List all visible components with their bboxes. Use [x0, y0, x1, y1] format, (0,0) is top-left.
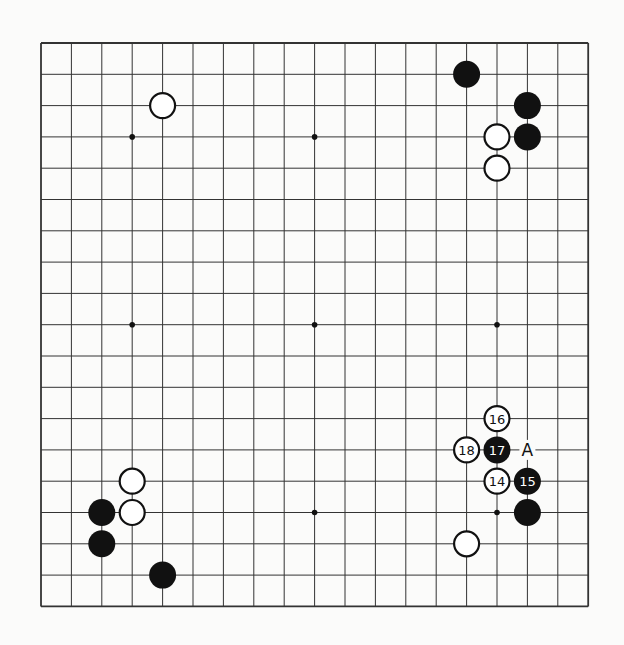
star-point — [312, 134, 318, 140]
marker-label: A — [522, 440, 534, 460]
white-stone — [454, 531, 479, 556]
white-stone — [150, 93, 175, 118]
move-number: 14 — [489, 474, 506, 489]
white-stone — [485, 124, 510, 149]
star-point — [494, 322, 500, 328]
star-point — [494, 510, 500, 516]
white-stone — [120, 469, 145, 494]
white-stone — [485, 156, 510, 181]
star-point — [129, 134, 135, 140]
go-board: A1618171415 — [0, 0, 624, 645]
star-point — [312, 322, 318, 328]
move-number: 16 — [489, 412, 506, 427]
black-stone — [88, 499, 115, 526]
black-stone — [453, 61, 480, 88]
black-stone — [514, 123, 541, 150]
white-stone — [120, 500, 145, 525]
black-stone — [149, 562, 176, 589]
move-number: 18 — [458, 443, 475, 458]
move-number: 15 — [519, 474, 536, 489]
star-point — [129, 322, 135, 328]
star-point — [312, 510, 318, 516]
move-number: 17 — [489, 443, 506, 458]
black-stone — [88, 530, 115, 557]
black-stone — [514, 92, 541, 119]
black-stone — [514, 499, 541, 526]
